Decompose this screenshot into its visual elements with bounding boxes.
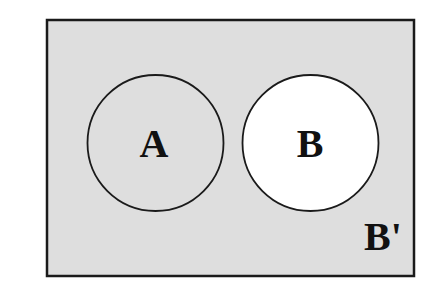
set-a-label: A [140,121,169,166]
b-complement-label: B' [364,214,402,259]
set-b-label: B [297,121,324,166]
venn-diagram: A B B' [0,0,441,289]
